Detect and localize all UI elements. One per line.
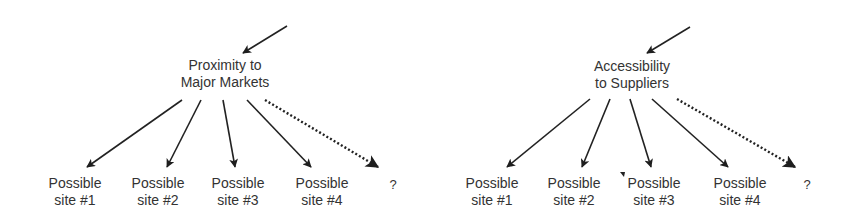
site-line2: site #1 <box>466 192 519 209</box>
question-mark: ? <box>389 176 396 193</box>
branch-arrow-icon <box>630 99 651 167</box>
branch-arrow-icon <box>652 99 728 167</box>
factor-line1: Accessibility <box>594 58 670 75</box>
factor-line2: to Suppliers <box>594 75 670 92</box>
dotted-arrow-icon <box>265 100 378 167</box>
branch-arrow-icon <box>507 99 590 167</box>
site-line1: Possible <box>548 175 601 192</box>
site-line1: Possible <box>212 175 265 192</box>
site-node-3: Possible site #3 <box>212 175 265 209</box>
branch-arrow-icon <box>167 100 201 167</box>
branch-arrow-icon <box>223 100 235 167</box>
factor-node: Proximity to Major Markets <box>181 57 270 91</box>
site-line2: site #2 <box>132 192 185 209</box>
branch-arrow-icon <box>247 100 311 167</box>
site-selection-diagrams: Proximity to Major Markets Possible site… <box>0 0 857 219</box>
question-mark: ? <box>803 176 810 193</box>
stray-mark <box>620 172 625 177</box>
site-line1: Possible <box>466 175 519 192</box>
incoming-arrow-icon <box>647 27 690 53</box>
factor-line1: Proximity to <box>181 57 270 74</box>
unknown-site-node: ? <box>389 176 396 193</box>
site-line2: site #3 <box>212 192 265 209</box>
site-node-4: Possible site #4 <box>296 175 349 209</box>
site-line1: Possible <box>49 175 102 192</box>
site-line2: site #4 <box>296 192 349 209</box>
site-node-1: Possible site #1 <box>49 175 102 209</box>
site-node-3: Possible site #3 <box>628 175 681 209</box>
branch-arrow-icon <box>87 100 182 167</box>
site-node-2: Possible site #2 <box>132 175 185 209</box>
site-line2: site #1 <box>49 192 102 209</box>
factor-line2: Major Markets <box>181 74 270 91</box>
site-line2: site #3 <box>628 192 681 209</box>
site-line1: Possible <box>132 175 185 192</box>
site-node-4: Possible site #4 <box>714 175 767 209</box>
dotted-arrow-icon <box>677 99 795 167</box>
site-node-2: Possible site #2 <box>548 175 601 209</box>
incoming-arrow-icon <box>243 26 287 53</box>
site-line2: site #4 <box>714 192 767 209</box>
unknown-site-node: ? <box>803 176 810 193</box>
branch-arrow-icon <box>582 99 610 167</box>
site-line1: Possible <box>628 175 681 192</box>
site-line1: Possible <box>714 175 767 192</box>
site-line1: Possible <box>296 175 349 192</box>
factor-node: Accessibility to Suppliers <box>594 58 670 92</box>
site-node-1: Possible site #1 <box>466 175 519 209</box>
site-line2: site #2 <box>548 192 601 209</box>
